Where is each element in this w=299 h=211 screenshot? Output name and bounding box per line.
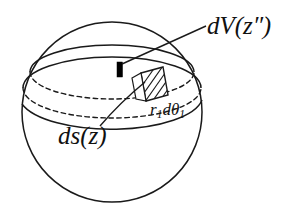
label-dv-close-paren: ) — [263, 12, 271, 39]
dv-marker-rect — [117, 62, 123, 77]
label-ds-z: z — [89, 122, 99, 149]
label-dv-d: d — [207, 12, 220, 39]
label-theta: θ — [171, 100, 179, 119]
label-dv-V: V — [220, 12, 235, 39]
label-dv-z: z — [243, 12, 253, 39]
label-dv-open-paren: ( — [235, 12, 243, 39]
label-ds-close-paren: ) — [98, 122, 106, 149]
label-theta-subscript: 1 — [179, 108, 185, 121]
label-volume-element: dV(z″) — [207, 13, 271, 38]
label-dv-primes: ″ — [253, 12, 263, 39]
label-ds-open-paren: ( — [80, 122, 88, 149]
label-arc-length: r1dθ1 — [150, 101, 185, 120]
label-surface-element: ds(z) — [58, 123, 107, 148]
label-ds-s: s — [71, 122, 81, 149]
figure-root: dV(z″) ds(z) r1dθ1 — [0, 0, 299, 211]
label-r: r — [150, 100, 157, 119]
label-dtheta-d: d — [162, 100, 171, 119]
label-ds-d: d — [58, 122, 71, 149]
